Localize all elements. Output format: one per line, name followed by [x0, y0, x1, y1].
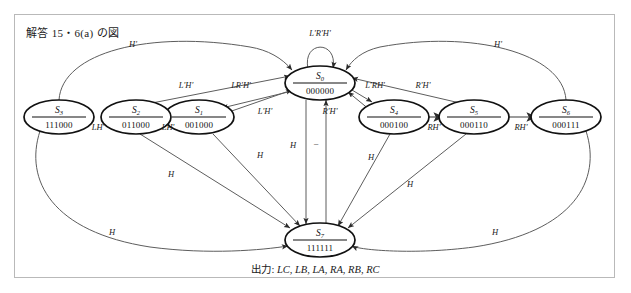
edge-label-s7-to-s0: – — [313, 138, 319, 148]
edge-label-s3-to-s0-return: H' — [128, 39, 137, 49]
edge-s1-s7 — [213, 134, 300, 226]
state-code: 111000 — [45, 120, 73, 130]
figure-caption: 出力: LC, LB, LA, RA, RB, RC — [0, 261, 631, 276]
state-node-s6[interactable]: S6000111 — [531, 100, 601, 134]
state-node-s7[interactable]: S7111111 — [285, 223, 355, 257]
edge-label-s1-to-s2: LH' — [161, 122, 175, 132]
edge-s0-s4 — [352, 90, 372, 102]
caption-signals: LC, LB, LA, RA, RB, RC — [277, 264, 380, 275]
edge-label-s5-to-s0: R'H' — [415, 80, 431, 90]
edge-label-s6-to-s0-return: H' — [493, 39, 502, 49]
edge-s2-s0 — [152, 76, 290, 103]
edge-label-s1-to-s7: H — [256, 150, 264, 160]
state-node-s4[interactable]: S4000100 — [359, 100, 429, 134]
state-diagram: S0000000S1001000S2011000S3111000S4000100… — [0, 0, 631, 293]
edge-s3-s0-top — [59, 41, 292, 100]
edge-s2-s7 — [140, 134, 290, 228]
edge-label-s4-to-s0: R'H' — [322, 106, 338, 116]
edge-label-s4-to-s5: RH' — [426, 122, 440, 132]
edge-label-s1-to-s0: L'H' — [257, 106, 273, 116]
state-node-s2[interactable]: S2011000 — [101, 100, 171, 134]
state-code: 001000 — [185, 120, 213, 130]
state-node-s3[interactable]: S3111000 — [24, 100, 94, 134]
edge-label-s5-to-s7: H — [406, 179, 414, 189]
edge-label-s5-to-s6: RH' — [513, 122, 527, 132]
edge-label-s0-to-s1: LR'H' — [230, 80, 251, 90]
edge-label-s2-to-s3: LH' — [91, 122, 105, 132]
edge-label-s2-to-s0: L'H' — [178, 80, 194, 90]
state-code: 000100 — [380, 120, 409, 130]
edge-s3-s7-bottom — [36, 131, 288, 251]
edge-label-s3-to-s7: H — [108, 227, 116, 237]
state-code: 000000 — [306, 86, 335, 96]
state-code: 000111 — [552, 120, 580, 130]
state-code: 011000 — [122, 120, 150, 130]
edge-label-s4-to-s7: H — [367, 152, 375, 162]
figure-page: 解答 15・6(a) の図 — [0, 0, 631, 293]
edge-label-s2-to-s7: H — [167, 169, 175, 179]
state-code: 111111 — [307, 243, 334, 253]
edge-s6-s0-top — [346, 41, 566, 100]
edge-label-s0-to-s4: L'RH' — [364, 80, 385, 90]
edge-label-s0-to-s7: H — [289, 140, 297, 150]
state-node-s5[interactable]: S5000110 — [439, 100, 509, 134]
edge-s4-s7 — [338, 134, 390, 226]
state-code: 000110 — [460, 120, 488, 130]
state-node-s1[interactable]: S1001000 — [164, 100, 234, 134]
caption-label: 出力: — [251, 264, 274, 275]
state-node-s0[interactable]: S0000000 — [285, 66, 355, 100]
edge-label-s6-to-s7: H — [491, 227, 499, 237]
edge-label-self-loop-s0: L'R'H' — [308, 28, 331, 38]
edge-s6-s7-bottom — [352, 131, 590, 251]
